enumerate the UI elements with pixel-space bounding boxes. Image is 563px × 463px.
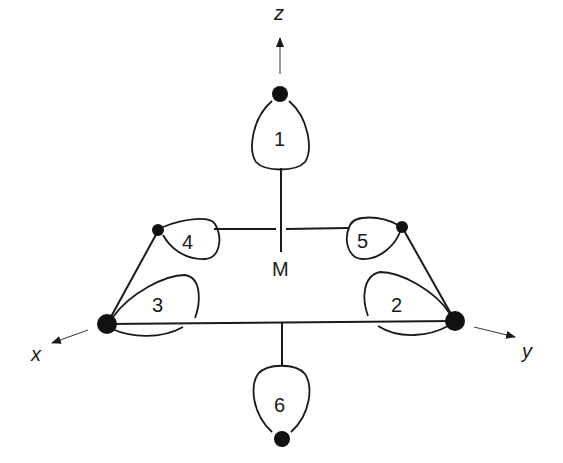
- atom-3: [97, 314, 117, 334]
- lobe-5: 5: [347, 218, 400, 260]
- lobe-3-label: 3: [152, 294, 163, 316]
- lobe-4-label: 4: [182, 231, 193, 253]
- y-axis: y: [474, 327, 533, 362]
- atom-6: [274, 431, 290, 447]
- lobe-3: 3: [112, 275, 199, 336]
- x-axis: x: [30, 330, 88, 365]
- atom-5: [396, 221, 408, 233]
- x-axis-label: x: [30, 343, 42, 365]
- metal-center-label: M: [272, 258, 289, 280]
- lobe-2-label: 2: [391, 294, 402, 316]
- y-axis-label: y: [520, 340, 533, 362]
- atom-4: [152, 224, 164, 236]
- lobe-6-label: 6: [274, 394, 285, 416]
- atom-1: [272, 86, 288, 102]
- lobe-6: 6: [254, 366, 310, 432]
- octahedral-orbital-diagram: z x y 1 6 4 5: [0, 0, 563, 463]
- z-axis-label: z: [273, 2, 284, 24]
- lobe-2: 2: [364, 272, 450, 335]
- z-axis: z: [273, 2, 284, 74]
- lobe-5-label: 5: [357, 230, 368, 252]
- lobe-4: 4: [163, 219, 219, 259]
- lobe-1-label: 1: [274, 128, 285, 150]
- lobe-1: 1: [252, 101, 309, 170]
- atom-2: [445, 311, 465, 331]
